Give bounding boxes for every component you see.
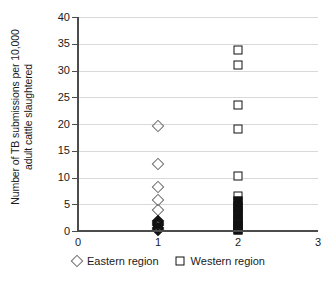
data-point-square [234, 100, 243, 109]
y-axis-tick-label: 15 [44, 145, 70, 156]
gridline [78, 71, 318, 72]
y-axis-tick-label: 30 [44, 65, 70, 76]
x-axis-tick-label: 2 [226, 237, 250, 248]
plot-area [78, 17, 318, 231]
y-axis-tick-label: 20 [44, 119, 70, 130]
data-point-diamond [152, 119, 165, 132]
data-point-square [234, 171, 243, 180]
data-point-diamond [152, 158, 165, 171]
gridline [78, 124, 318, 125]
x-axis-tick-label: 0 [66, 237, 90, 248]
x-axis-tick-label: 1 [146, 237, 170, 248]
x-axis-tick-label: 3 [306, 237, 330, 248]
y-axis-tick-label: 35 [44, 38, 70, 49]
gridline [78, 44, 318, 45]
scatter-chart-figure: Number of TB submissions per 10,000 adul… [0, 0, 336, 284]
y-axis-tick-label: 40 [44, 12, 70, 23]
y-axis-title: Number of TB submissions per 10,000 adul… [0, 0, 44, 234]
gridline [78, 97, 318, 98]
legend-label-eastern-region: Eastern region [87, 255, 159, 267]
y-axis-title-line-1: Number of TB submissions per 10,000 [9, 29, 22, 204]
square-icon [175, 256, 186, 267]
diamond-icon [71, 256, 82, 267]
x-axis-line [78, 230, 318, 232]
data-point-diamond [152, 180, 165, 193]
legend-item-western-region: Western region [175, 255, 265, 267]
gridline [78, 178, 318, 179]
gridline [78, 151, 318, 152]
gridline [78, 17, 318, 18]
data-point-square [234, 45, 243, 54]
data-point-square [234, 124, 243, 133]
chart-legend: Eastern region Western region [0, 255, 336, 267]
data-point-square [234, 60, 243, 69]
y-axis-tick-label: 5 [44, 199, 70, 210]
legend-label-western-region: Western region [191, 255, 265, 267]
y-axis-title-line-2: adult cattle slaughtered [22, 29, 35, 204]
gridline [78, 204, 318, 205]
y-axis-tick-label: 25 [44, 92, 70, 103]
legend-item-eastern-region: Eastern region [71, 255, 159, 267]
y-axis-tick-label: 10 [44, 172, 70, 183]
y-axis-line [77, 17, 79, 232]
y-axis-tick-label: 0 [44, 226, 70, 237]
